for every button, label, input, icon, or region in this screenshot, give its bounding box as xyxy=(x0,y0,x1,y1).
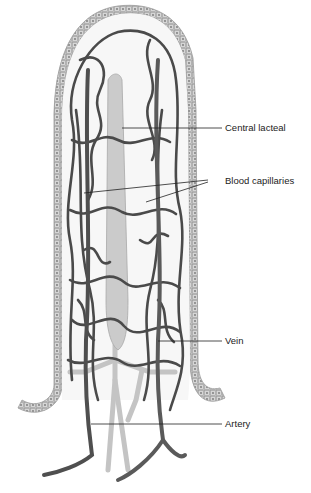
label-artery: Artery xyxy=(225,419,250,429)
label-blood-capillaries: Blood capillaries xyxy=(225,176,294,186)
label-central-lacteal: Central lacteal xyxy=(225,123,286,133)
label-vein: Vein xyxy=(225,336,244,346)
villus-diagram xyxy=(0,0,311,493)
